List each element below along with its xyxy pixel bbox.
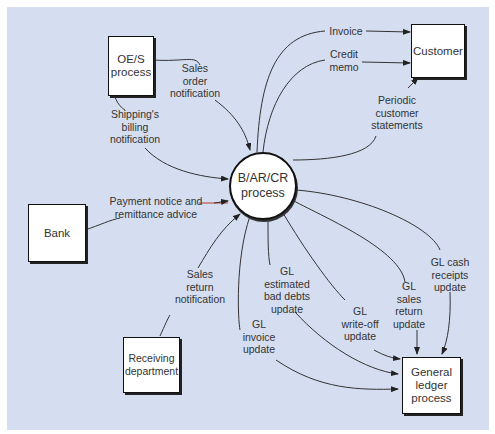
- receiving-department-label: Receiving department: [125, 352, 178, 378]
- customer-label: Customer: [413, 45, 463, 58]
- flow-label-periodic-statements: Periodic customer statements: [362, 94, 432, 132]
- flow-label-invoice: Invoice: [325, 25, 367, 38]
- flow-label-sales-order: Sales order notification: [160, 62, 230, 100]
- flow-label-gl-bad-debts: GL estimated bad debts update: [257, 265, 317, 315]
- oes-process-box[interactable]: OE/S process: [108, 36, 154, 96]
- oes-process-label: OE/S process: [111, 53, 151, 79]
- bank-label: Bank: [44, 227, 70, 240]
- flow-label-gl-invoice: GL invoice update: [238, 318, 280, 356]
- flow-label-gl-write-off: GL write-off update: [335, 305, 385, 343]
- flow-label-shipping-billing: Shipping's billing notification: [100, 108, 170, 146]
- bank-box[interactable]: Bank: [28, 204, 86, 262]
- general-ledger-process-label: General ledger process: [411, 366, 452, 405]
- flow-label-payment-notice: Payment notice and remittance advice: [97, 195, 215, 220]
- flow-label-credit-memo: Credit memo: [325, 48, 363, 73]
- general-ledger-process-box[interactable]: General ledger process: [402, 357, 461, 414]
- barcr-process-circle[interactable]: B/AR/CR process: [229, 152, 297, 220]
- flow-label-gl-sales-return: GL sales return update: [390, 280, 428, 330]
- flow-label-sales-return-notification: Sales return notification: [165, 268, 235, 306]
- flow-label-gl-cash-receipts: GL cash receipts update: [425, 256, 475, 294]
- receiving-department-box[interactable]: Receiving department: [123, 337, 180, 393]
- customer-box[interactable]: Customer: [411, 24, 465, 78]
- barcr-process-label: B/AR/CR process: [238, 171, 289, 201]
